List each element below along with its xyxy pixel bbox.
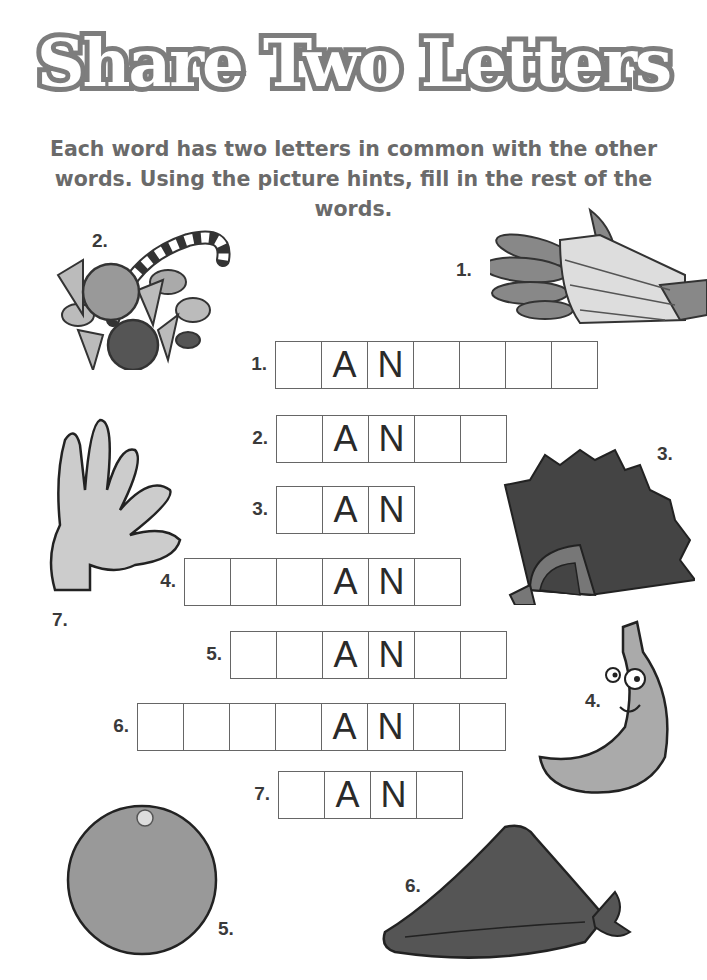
puzzle-row-1: 1.AN: [275, 341, 598, 389]
given-letter-box: N: [369, 632, 415, 678]
candy-icon: [38, 220, 238, 370]
row-number: 5.: [182, 643, 222, 665]
given-letter-box: N: [371, 772, 417, 818]
bandaged-hand-icon: [490, 205, 707, 330]
empty-letter-box[interactable]: [184, 704, 230, 750]
empty-letter-box[interactable]: [277, 632, 323, 678]
puzzle-row-7: 7.AN: [278, 771, 463, 819]
row-number: 2.: [228, 427, 268, 449]
puzzle-row-3: 3.AN: [276, 486, 415, 534]
empty-letter-box[interactable]: [279, 772, 325, 818]
empty-letter-box[interactable]: [460, 704, 506, 750]
letter-boxes: AN: [276, 486, 415, 534]
given-letter-box: A: [323, 416, 369, 462]
puzzle-row-5: 5.AN: [230, 631, 507, 679]
empty-letter-box[interactable]: [277, 487, 323, 533]
folding-fan-icon: [500, 445, 695, 605]
given-letter-box: N: [369, 487, 415, 533]
row-number: 7.: [230, 783, 270, 805]
empty-letter-box[interactable]: [276, 704, 322, 750]
empty-letter-box[interactable]: [414, 342, 460, 388]
banana-icon: [535, 617, 695, 802]
empty-letter-box[interactable]: [230, 704, 276, 750]
empty-letter-box[interactable]: [138, 704, 184, 750]
empty-letter-box[interactable]: [506, 342, 552, 388]
empty-letter-box[interactable]: [552, 342, 598, 388]
empty-letter-box[interactable]: [417, 772, 463, 818]
letter-boxes: AN: [275, 341, 598, 389]
picture-label-1: 1.: [456, 259, 472, 281]
bandana-icon: [375, 822, 635, 962]
given-letter-box: N: [369, 559, 415, 605]
given-letter-box: A: [323, 487, 369, 533]
given-letter-box: A: [322, 342, 368, 388]
empty-letter-box[interactable]: [461, 632, 507, 678]
page-title: Share Two Letters: [0, 18, 707, 108]
empty-letter-box[interactable]: [414, 704, 460, 750]
orange-icon: [65, 803, 220, 958]
row-number: 6.: [89, 715, 129, 737]
empty-letter-box[interactable]: [231, 632, 277, 678]
empty-letter-box[interactable]: [231, 559, 277, 605]
letter-boxes: AN: [137, 703, 506, 751]
letter-boxes: AN: [276, 415, 507, 463]
letter-boxes: AN: [184, 558, 461, 606]
empty-letter-box[interactable]: [277, 559, 323, 605]
empty-letter-box[interactable]: [185, 559, 231, 605]
letter-boxes: AN: [230, 631, 507, 679]
empty-letter-box[interactable]: [460, 342, 506, 388]
empty-letter-box[interactable]: [415, 416, 461, 462]
given-letter-box: A: [323, 559, 369, 605]
hand-icon: [35, 415, 190, 595]
empty-letter-box[interactable]: [415, 559, 461, 605]
picture-label-5: 5.: [218, 918, 234, 940]
letter-boxes: AN: [278, 771, 463, 819]
given-letter-box: N: [368, 704, 414, 750]
given-letter-box: N: [369, 416, 415, 462]
given-letter-box: A: [323, 632, 369, 678]
given-letter-box: A: [325, 772, 371, 818]
given-letter-box: N: [368, 342, 414, 388]
row-number: 3.: [228, 498, 268, 520]
empty-letter-box[interactable]: [276, 342, 322, 388]
puzzle-row-2: 2.AN: [276, 415, 507, 463]
puzzle-row-6: 6.AN: [137, 703, 506, 751]
empty-letter-box[interactable]: [415, 632, 461, 678]
empty-letter-box[interactable]: [277, 416, 323, 462]
puzzle-row-4: 4.AN: [184, 558, 461, 606]
picture-label-7: 7.: [52, 609, 68, 631]
given-letter-box: A: [322, 704, 368, 750]
